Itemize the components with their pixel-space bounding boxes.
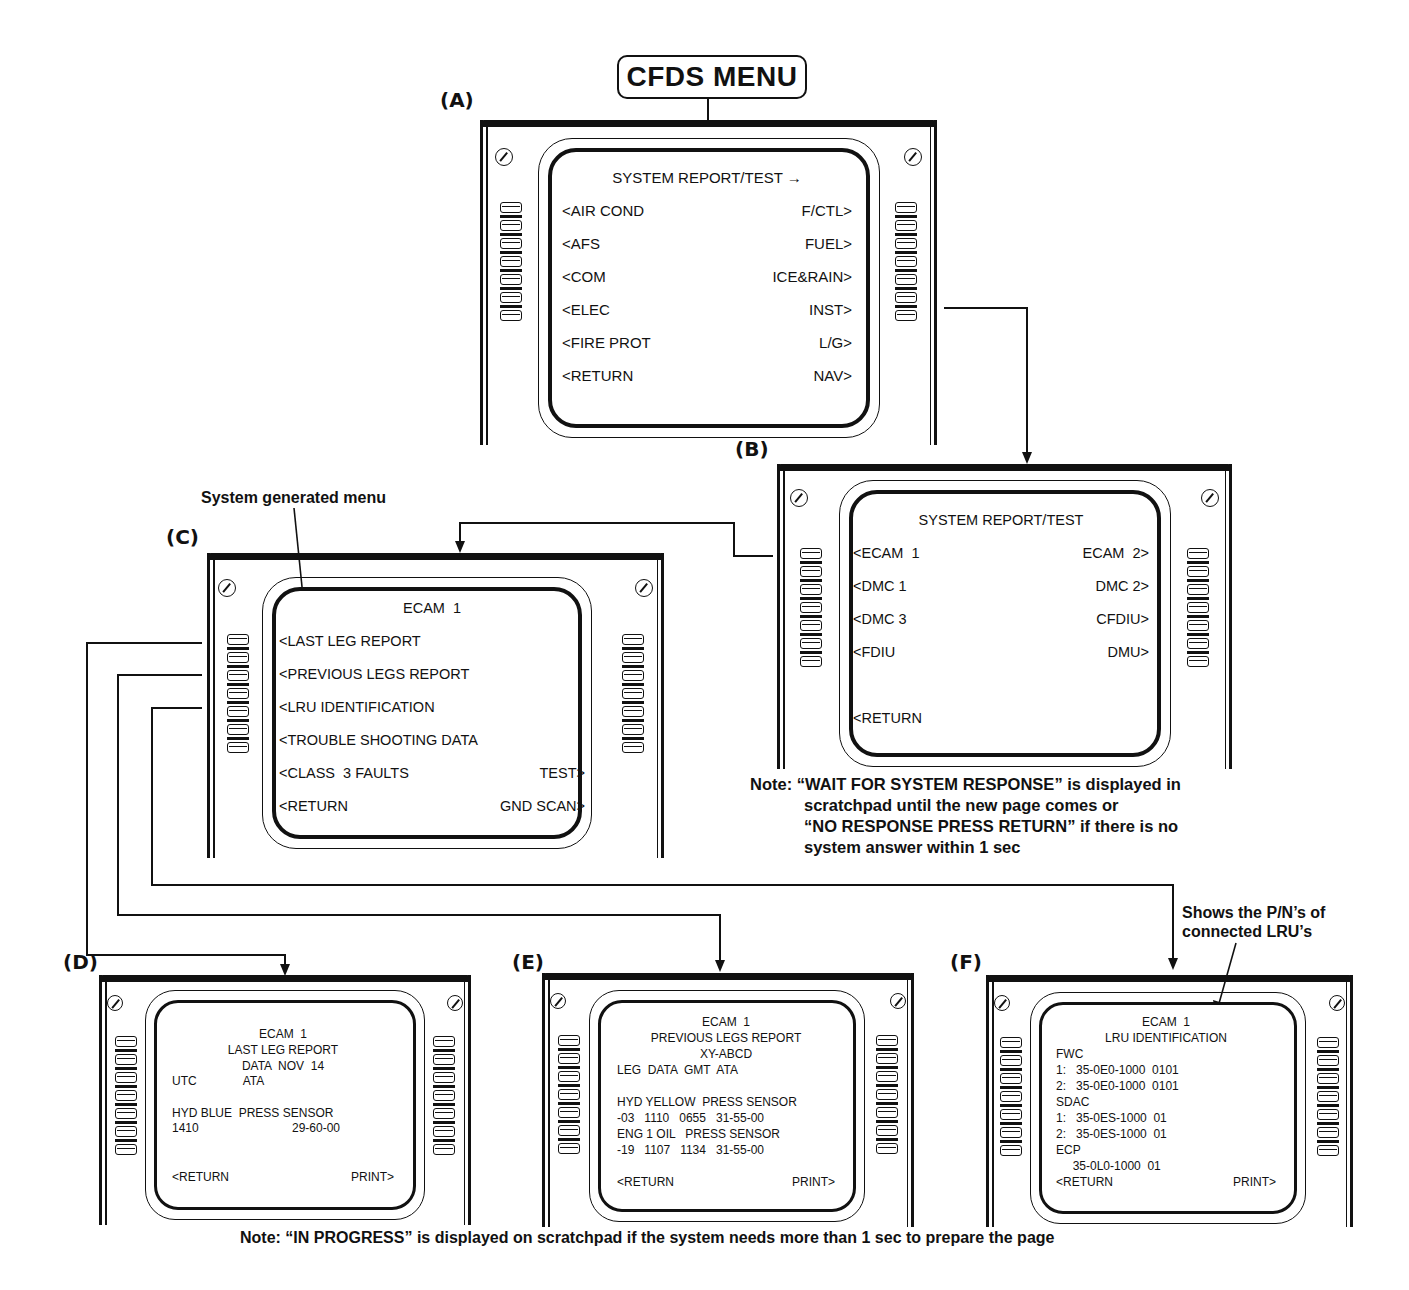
lsk-6r[interactable] xyxy=(876,1125,898,1136)
connector-c-to-f-drop xyxy=(1172,884,1174,960)
lsk-6l[interactable] xyxy=(1000,1127,1022,1138)
lsk-4r[interactable] xyxy=(876,1089,898,1100)
lsk-4r[interactable] xyxy=(622,688,644,699)
annotation-line: connected LRU’s xyxy=(1182,922,1325,941)
lsk-1l[interactable] xyxy=(1000,1037,1022,1048)
return-button[interactable]: <RETURN xyxy=(1056,1176,1113,1189)
lsk-extra-r[interactable] xyxy=(433,1144,455,1155)
screw-icon xyxy=(1329,995,1345,1011)
lsk-5r[interactable] xyxy=(1317,1109,1339,1120)
menu-item-test[interactable]: TEST> xyxy=(539,766,585,781)
menu-item-class-3-faults[interactable]: <CLASS 3 FAULTS xyxy=(279,766,409,781)
return-button[interactable]: <RETURN xyxy=(172,1171,229,1184)
fault-data: -19 1107 1134 31-55-00 xyxy=(617,1144,764,1157)
fault-description: ENG 1 OIL PRESS SENSOR xyxy=(617,1128,780,1141)
lsk-4l[interactable] xyxy=(558,1089,580,1100)
lsk-extra-l[interactable] xyxy=(558,1143,580,1154)
lsk-1l[interactable] xyxy=(115,1036,137,1047)
lsk-extra-l[interactable] xyxy=(115,1144,137,1155)
lsk-1r[interactable] xyxy=(876,1035,898,1046)
lsk-2l[interactable] xyxy=(115,1054,137,1065)
lsk-5r[interactable] xyxy=(622,706,644,717)
connector-c-to-d xyxy=(86,642,202,644)
lsk-5l[interactable] xyxy=(115,1108,137,1119)
lsk-extra-r[interactable] xyxy=(1317,1145,1339,1156)
connector-c-to-f-bottom xyxy=(151,884,1173,886)
lru-part-number: 35-0L0-1000 01 xyxy=(1056,1160,1161,1173)
menu-item-trouble-shooting-data[interactable]: <TROUBLE SHOOTING DATA xyxy=(279,733,478,748)
lsk-extra-l[interactable] xyxy=(227,742,249,753)
mcdu-panel-c: ECAM 1 <LAST LEG REPORT <PREVIOUS LEGS R… xyxy=(207,553,664,858)
lsk-3r[interactable] xyxy=(876,1071,898,1082)
lsk-2l[interactable] xyxy=(558,1053,580,1064)
lsk-6r[interactable] xyxy=(622,724,644,735)
left-line-select-keys xyxy=(558,1035,580,1154)
menu-item-gnd-scan[interactable]: GND SCAN> xyxy=(500,799,585,814)
lsk-4r[interactable] xyxy=(1317,1091,1339,1102)
lsk-4r[interactable] xyxy=(433,1090,455,1101)
lsk-1l[interactable] xyxy=(227,634,249,645)
lsk-2r[interactable] xyxy=(1317,1055,1339,1066)
lsk-4l[interactable] xyxy=(1000,1091,1022,1102)
lsk-3r[interactable] xyxy=(433,1072,455,1083)
arrow-down-icon xyxy=(1168,958,1178,970)
lru-group-ecp: ECP xyxy=(1056,1144,1081,1157)
lsk-extra-r[interactable] xyxy=(622,742,644,753)
lsk-3l[interactable] xyxy=(1000,1073,1022,1084)
screen-header: ECAM 1 xyxy=(1056,1016,1276,1029)
lsk-1r[interactable] xyxy=(433,1036,455,1047)
menu-item-previous-legs-report[interactable]: <PREVIOUS LEGS REPORT xyxy=(279,667,469,682)
fault-description: HYD YELLOW PRESS SENSOR xyxy=(617,1096,797,1109)
panel-label-e: (E) xyxy=(512,950,544,974)
menu-item-return[interactable]: <RETURN xyxy=(279,799,348,814)
lru-part-number: 1: 35-0ES-1000 01 xyxy=(1056,1112,1167,1125)
menu-item-lru-identification[interactable]: <LRU IDENTIFICATION xyxy=(279,700,435,715)
screen-date: DATA NOV 14 xyxy=(172,1060,394,1073)
panel-label-f: (F) xyxy=(950,950,982,974)
lsk-6l[interactable] xyxy=(115,1126,137,1137)
lsk-5r[interactable] xyxy=(433,1108,455,1119)
lsk-2r[interactable] xyxy=(433,1054,455,1065)
fault-data: -03 1110 0655 31-55-00 xyxy=(617,1112,764,1125)
lsk-5l[interactable] xyxy=(558,1107,580,1118)
print-button[interactable]: PRINT> xyxy=(1233,1176,1276,1189)
screen-f: ECAM 1 LRU IDENTIFICATION FWC 1: 35-0E0-… xyxy=(1056,1016,1276,1206)
lsk-3r[interactable] xyxy=(1317,1073,1339,1084)
lsk-extra-l[interactable] xyxy=(1000,1145,1022,1156)
lsk-1l[interactable] xyxy=(558,1035,580,1046)
lsk-6l[interactable] xyxy=(227,724,249,735)
connector-c-to-d-vertical xyxy=(86,642,88,955)
screw-icon xyxy=(890,993,906,1009)
lsk-extra-r[interactable] xyxy=(876,1143,898,1154)
right-line-select-keys xyxy=(622,634,644,753)
lsk-3l[interactable] xyxy=(115,1072,137,1083)
lsk-5l[interactable] xyxy=(1000,1109,1022,1120)
lsk-5l[interactable] xyxy=(227,706,249,717)
left-line-select-keys xyxy=(227,634,249,753)
print-button[interactable]: PRINT> xyxy=(792,1176,835,1189)
annotation-line: Shows the P/N’s of xyxy=(1182,903,1325,922)
lsk-6r[interactable] xyxy=(433,1126,455,1137)
lsk-4l[interactable] xyxy=(115,1090,137,1101)
lsk-6r[interactable] xyxy=(1317,1127,1339,1138)
lsk-2l[interactable] xyxy=(1000,1055,1022,1066)
lru-group-fwc: FWC xyxy=(1056,1048,1083,1061)
return-button[interactable]: <RETURN xyxy=(617,1176,674,1189)
mcdu-panel-e: ECAM 1 PREVIOUS LEGS REPORT XY-ABCD LEG … xyxy=(542,973,914,1227)
lsk-3l[interactable] xyxy=(558,1071,580,1082)
lsk-2r[interactable] xyxy=(622,652,644,663)
lsk-2r[interactable] xyxy=(876,1053,898,1064)
print-button[interactable]: PRINT> xyxy=(351,1171,394,1184)
lsk-1r[interactable] xyxy=(1317,1037,1339,1048)
lsk-3r[interactable] xyxy=(622,670,644,681)
connector-c-to-e-drop xyxy=(719,914,721,962)
lsk-5r[interactable] xyxy=(876,1107,898,1118)
lsk-3l[interactable] xyxy=(227,670,249,681)
lsk-2l[interactable] xyxy=(227,652,249,663)
lsk-4l[interactable] xyxy=(227,688,249,699)
screen-d: ECAM 1 LAST LEG REPORT DATA NOV 14 UTC A… xyxy=(172,1028,394,1198)
lsk-1r[interactable] xyxy=(622,634,644,645)
mcdu-panel-d: ECAM 1 LAST LEG REPORT DATA NOV 14 UTC A… xyxy=(99,975,471,1225)
menu-item-last-leg-report[interactable]: <LAST LEG REPORT xyxy=(279,634,421,649)
lsk-6l[interactable] xyxy=(558,1125,580,1136)
